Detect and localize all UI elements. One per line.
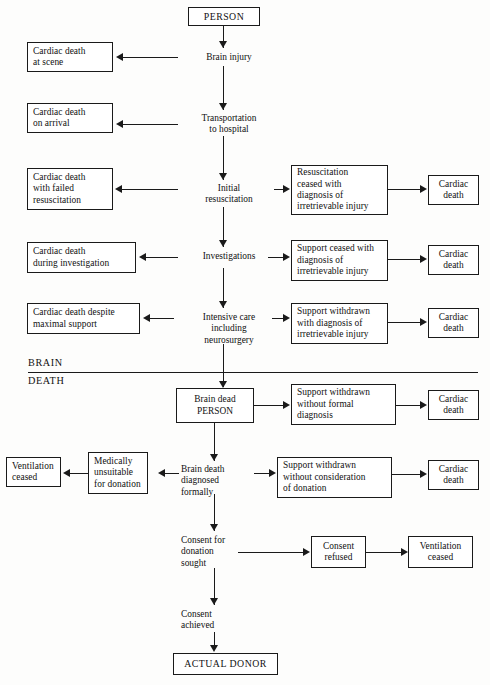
connector-initial-resus-to-failed-resus bbox=[122, 189, 178, 190]
arrowhead-ventilation-ceased-1 bbox=[63, 469, 70, 477]
arrowhead-cardiac-death-4 bbox=[420, 401, 427, 409]
node-cardiac-death-during-investigation: Cardiac death during investigation bbox=[27, 242, 136, 273]
connector-intensive-care-to-death-despite bbox=[150, 318, 174, 319]
connector-brain-death-diagnosed-to-medically-unsuitable bbox=[165, 473, 179, 474]
arrowhead-support-withdrawn-formal bbox=[283, 401, 290, 409]
arrowhead-ventilation-ceased-2 bbox=[401, 548, 408, 556]
connector-support-withdrawn-to-cardiac-death-3 bbox=[388, 322, 421, 323]
arrowhead-transportation bbox=[219, 103, 227, 110]
divider-label-brain: BRAIN bbox=[28, 357, 63, 368]
node-ventilation-ceased-2: Ventilation ceased bbox=[408, 536, 473, 568]
arrowhead-cardiac-death-3 bbox=[420, 318, 427, 326]
node-intensive-care: Intensive care including neurosurgery bbox=[177, 312, 281, 346]
arrowhead-consent-achieved bbox=[210, 598, 218, 605]
arrowhead-medically-unsuitable bbox=[158, 469, 165, 477]
flowchart-canvas: PERSON Brain injury Cardiac death at sce… bbox=[0, 0, 490, 685]
connector-investigations-to-support-ceased bbox=[268, 257, 284, 258]
connector-brain-dead-to-support-withdrawn-formal bbox=[254, 405, 284, 406]
arrowhead-initial-resuscitation bbox=[219, 173, 227, 180]
node-investigations: Investigations bbox=[183, 251, 275, 262]
node-support-withdrawn-without-consideration: Support withdrawn without consideration … bbox=[277, 457, 392, 498]
node-brain-injury: Brain injury bbox=[183, 52, 275, 63]
arrowhead-death-on-arrival bbox=[116, 120, 123, 128]
connector-medically-unsuitable-to-ventilation-ceased-1 bbox=[70, 473, 88, 474]
node-support-withdrawn-without-formal-diagnosis: Support withdrawn without formal diagnos… bbox=[291, 384, 396, 425]
connector-support-ceased-to-cardiac-death-2 bbox=[388, 259, 421, 260]
arrowhead-support-withdrawn-consideration bbox=[269, 469, 276, 477]
arrowhead-support-ceased bbox=[283, 253, 290, 261]
divider-rule bbox=[28, 372, 478, 373]
connector-support-withdrawn-consid-to-cardiac-death-5 bbox=[392, 474, 421, 475]
arrowhead-brain-death-diagnosed bbox=[210, 454, 218, 461]
node-ventilation-ceased-1: Ventilation ceased bbox=[6, 457, 61, 487]
connector-transport-to-death-on-arrival bbox=[123, 124, 178, 125]
connector-resus-ceased-to-cardiac-death-1 bbox=[388, 189, 421, 190]
node-transportation: Transportation to hospital bbox=[183, 113, 275, 136]
arrowhead-consent-refused bbox=[303, 548, 310, 556]
connector-support-withdrawn-formal-to-cardiac-death-4 bbox=[396, 405, 421, 406]
divider-label-death: DEATH bbox=[28, 375, 64, 386]
connector-consent-sought-to-consent-refused bbox=[238, 552, 304, 553]
node-initial-resuscitation: Initial resuscitation bbox=[183, 183, 275, 206]
node-consent-refused: Consent refused bbox=[311, 536, 366, 568]
arrowhead-cardiac-death-5 bbox=[420, 470, 427, 478]
node-cardiac-death-despite-maximal-support: Cardiac death despite maximal support bbox=[27, 303, 140, 334]
arrowhead-death-at-scene bbox=[116, 53, 123, 61]
node-cardiac-death-5: Cardiac death bbox=[428, 460, 479, 490]
node-consent-achieved: Consent achieved bbox=[181, 609, 271, 632]
node-cardiac-death-1: Cardiac death bbox=[428, 175, 479, 205]
connector-consent-refused-to-ventilation-ceased-2 bbox=[366, 552, 402, 553]
node-cardiac-death-failed-resuscitation: Cardiac death with failed resuscitation bbox=[27, 168, 113, 210]
node-brain-death-diagnosed-formally: Brain death diagnosed formally bbox=[181, 464, 271, 498]
node-person: PERSON bbox=[188, 7, 260, 26]
node-cardiac-death-3: Cardiac death bbox=[428, 308, 479, 338]
arrowhead-intensive-care bbox=[219, 301, 227, 308]
node-actual-donor: ACTUAL DONOR bbox=[173, 653, 278, 675]
arrowhead-brain-injury bbox=[219, 41, 227, 48]
arrowhead-support-withdrawn-diagnosis bbox=[283, 314, 290, 322]
connector-investigations-to-death-during bbox=[146, 257, 178, 258]
node-cardiac-death-at-scene: Cardiac death at scene bbox=[27, 42, 113, 72]
arrowhead-death-despite-maximal bbox=[143, 314, 150, 322]
connector-brain-injury-to-death-at-scene bbox=[123, 57, 178, 58]
connector-brain-death-diagnosed-to-support-withdrawn-consid bbox=[254, 473, 270, 474]
node-support-withdrawn-diagnosis: Support withdrawn with diagnosis of irre… bbox=[291, 303, 388, 344]
arrowhead-resuscitation-ceased bbox=[283, 185, 290, 193]
arrowhead-cardiac-death-1 bbox=[420, 185, 427, 193]
node-brain-dead-person: Brain dead PERSON bbox=[176, 388, 254, 423]
node-cardiac-death-on-arrival: Cardiac death on arrival bbox=[27, 103, 113, 133]
node-resuscitation-ceased: Resuscitation ceased with diagnosis of i… bbox=[291, 165, 388, 215]
arrowhead-brain-dead-person bbox=[219, 381, 227, 388]
arrowhead-death-during-investigation bbox=[139, 253, 146, 261]
arrowhead-actual-donor bbox=[210, 645, 218, 652]
arrowhead-investigations bbox=[219, 240, 227, 247]
arrowhead-failed-resuscitation bbox=[115, 185, 122, 193]
arrowhead-consent-sought bbox=[210, 524, 218, 531]
node-cardiac-death-4: Cardiac death bbox=[428, 390, 479, 420]
node-support-ceased: Support ceased with diagnosis of irretri… bbox=[291, 240, 388, 281]
node-medically-unsuitable-for-donation: Medically unsuitable for donation bbox=[88, 452, 148, 494]
node-cardiac-death-2: Cardiac death bbox=[428, 245, 479, 275]
arrowhead-cardiac-death-2 bbox=[420, 255, 427, 263]
